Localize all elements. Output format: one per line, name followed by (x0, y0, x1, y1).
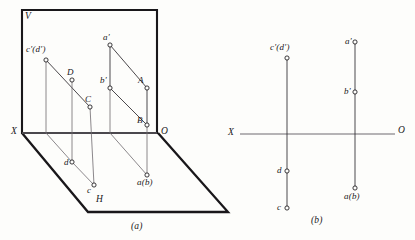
h-plane-label: H (96, 195, 103, 205)
marker-b-prime (108, 86, 112, 90)
pictorial-label-cd-prime: c′(d′) (26, 45, 46, 54)
pictorial-axis-x-label: X (11, 127, 17, 137)
orthographic-projection-group (240, 40, 395, 210)
pictorial-label-point-a-space: A (138, 76, 144, 85)
v-plane-label: V (25, 12, 31, 22)
pictorial-label-point-d-plan: d (64, 158, 69, 167)
figure-drawing-canvas (0, 0, 415, 240)
pictorial-label-ab-plan: a(b) (137, 178, 153, 187)
marker-point-b-space (145, 123, 149, 127)
ortho-axis-o-label: O (398, 126, 405, 136)
marker-point-c-plan (92, 183, 96, 187)
marker-point-a-space (145, 86, 149, 90)
h-plane-outline (22, 133, 228, 212)
figure-root: V H X O c′(d′) D C a′ b′ A B d c a(b) X … (0, 0, 415, 240)
marker-point-c-space (88, 105, 92, 109)
caption-b: (b) (311, 216, 323, 226)
pictorial-point-markers (44, 43, 149, 187)
pictorial-label-a-prime: a′ (103, 33, 110, 42)
marker-a-prime (108, 43, 112, 47)
marker-a-prime (353, 40, 357, 44)
pictorial-projection-group (22, 10, 228, 212)
ortho-label-b-prime: b′ (344, 87, 351, 96)
ab-space-segment (110, 45, 147, 125)
pictorial-label-point-d-space: D (67, 68, 74, 77)
marker-point-d-plan (70, 160, 74, 164)
pictorial-axis-o-label: O (161, 127, 168, 137)
pictorial-label-point-c-plan: c (87, 186, 91, 195)
marker-point-d-plan (285, 169, 289, 173)
ortho-point-markers (285, 40, 357, 210)
marker-cd-prime (44, 58, 48, 62)
ortho-label-ab-plan: a(b) (344, 192, 360, 201)
ortho-label-a-prime: a′ (345, 37, 352, 46)
marker-point-d-space (70, 78, 74, 82)
pictorial-label-b-prime: b′ (100, 76, 107, 85)
marker-point-c-plan (285, 206, 289, 210)
pictorial-label-point-c-space: C (85, 95, 91, 104)
marker-ab-plan (353, 186, 357, 190)
caption-a: (a) (131, 222, 143, 232)
marker-b-prime (353, 90, 357, 94)
marker-cd-prime (285, 56, 289, 60)
pictorial-label-point-b-space: B (137, 116, 143, 125)
ortho-label-point-c-plan: c (277, 203, 281, 212)
ab-projector-lines (110, 88, 147, 175)
ortho-label-point-d-plan: d (277, 166, 282, 175)
ortho-axis-x-label: X (228, 128, 234, 138)
ortho-label-cd-prime: c′(d′) (270, 43, 290, 52)
